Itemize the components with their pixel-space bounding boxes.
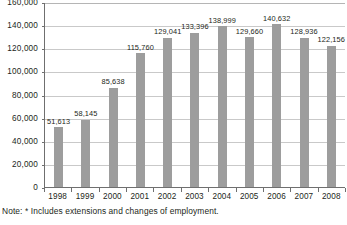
bar-slot: 128,936 [290, 3, 317, 187]
chart-title-clipped [0, 0, 347, 2]
y-axis-labels: 020,00040,00060,00080,000100,000120,0001… [0, 3, 42, 188]
y-axis-tick [42, 119, 45, 120]
bar-slot: 51,613 [45, 3, 72, 187]
y-axis-tick [42, 165, 45, 166]
bar-slot: 115,760 [127, 3, 154, 187]
x-axis-tick-label: 2006 [263, 191, 290, 203]
bar[interactable]: 128,936 [300, 38, 309, 187]
x-axis-tick-label: 2005 [236, 191, 263, 203]
bar-chart: 020,00040,00060,00080,000100,000120,0001… [0, 3, 347, 199]
bar[interactable]: 138,999 [218, 26, 227, 187]
x-axis-tick-label: 2007 [290, 191, 317, 203]
bar-value-label: 58,145 [74, 110, 97, 118]
bar[interactable]: 129,660 [245, 37, 254, 187]
bar[interactable]: 51,613 [54, 127, 63, 187]
bar-value-label: 122,156 [318, 36, 345, 44]
bar-value-label: 138,999 [209, 17, 236, 25]
x-axis-tick-label: 2003 [181, 191, 208, 203]
y-axis-tick-label: 140,000 [7, 22, 38, 30]
bar[interactable]: 140,632 [272, 24, 281, 187]
y-axis-tick [42, 3, 45, 4]
bar-value-label: 128,936 [290, 28, 317, 36]
y-axis-tick-label: 160,000 [7, 0, 38, 7]
x-axis-tick [345, 188, 346, 192]
y-axis-tick [42, 96, 45, 97]
x-axis-tick-label: 1998 [44, 191, 71, 203]
bar[interactable]: 129,041 [163, 38, 172, 187]
bar-slot: 58,145 [72, 3, 99, 187]
y-axis-tick [42, 26, 45, 27]
bar-value-label: 129,660 [236, 28, 263, 36]
y-axis-tick-label: 40,000 [12, 138, 38, 146]
bar-slot: 138,999 [209, 3, 236, 187]
bar-slot: 140,632 [263, 3, 290, 187]
y-axis-tick [42, 142, 45, 143]
x-axis-tick-label: 2000 [99, 191, 126, 203]
bar-slot: 133,396 [181, 3, 208, 187]
bar[interactable]: 58,145 [81, 120, 90, 187]
y-axis-tick-label: 100,000 [7, 68, 38, 76]
y-axis-tick-label: 0 [33, 184, 38, 192]
bar-value-label: 85,638 [102, 78, 125, 86]
bar-slot: 129,660 [236, 3, 263, 187]
y-axis-tick-label: 60,000 [12, 115, 38, 123]
bar[interactable]: 115,760 [136, 53, 145, 187]
bar[interactable]: 133,396 [190, 33, 199, 187]
bar[interactable]: 122,156 [327, 46, 336, 187]
x-axis-labels: 1998199920002001200220032004200520062007… [44, 191, 345, 203]
x-axis-tick-label: 2004 [208, 191, 235, 203]
chart-figure: 020,00040,00060,00080,000100,000120,0001… [0, 0, 347, 225]
bar-value-label: 140,632 [263, 15, 290, 23]
bar[interactable]: 85,638 [109, 88, 118, 187]
y-axis-tick-label: 20,000 [12, 161, 38, 169]
y-axis-tick [42, 72, 45, 73]
bar-value-label: 129,041 [154, 28, 181, 36]
bar-slot: 129,041 [154, 3, 181, 187]
footnote: Note: * Includes extensions and changes … [2, 206, 219, 217]
bar-slot: 85,638 [100, 3, 127, 187]
bar-series: 51,61358,14585,638115,760129,041133,3961… [45, 3, 345, 187]
x-axis-tick-label: 2001 [126, 191, 153, 203]
y-axis-tick-label: 120,000 [7, 45, 38, 53]
x-axis-tick-label: 2002 [153, 191, 180, 203]
bar-slot: 122,156 [318, 3, 345, 187]
x-axis-tick-label: 1999 [71, 191, 98, 203]
bar-value-label: 133,396 [181, 23, 208, 31]
bar-value-label: 51,613 [47, 118, 70, 126]
x-axis-tick-label: 2008 [318, 191, 345, 203]
bar-value-label: 115,760 [127, 44, 154, 52]
y-axis-tick-label: 80,000 [12, 92, 38, 100]
y-axis-tick [42, 49, 45, 50]
plot-area: 51,61358,14585,638115,760129,041133,3961… [44, 3, 345, 188]
